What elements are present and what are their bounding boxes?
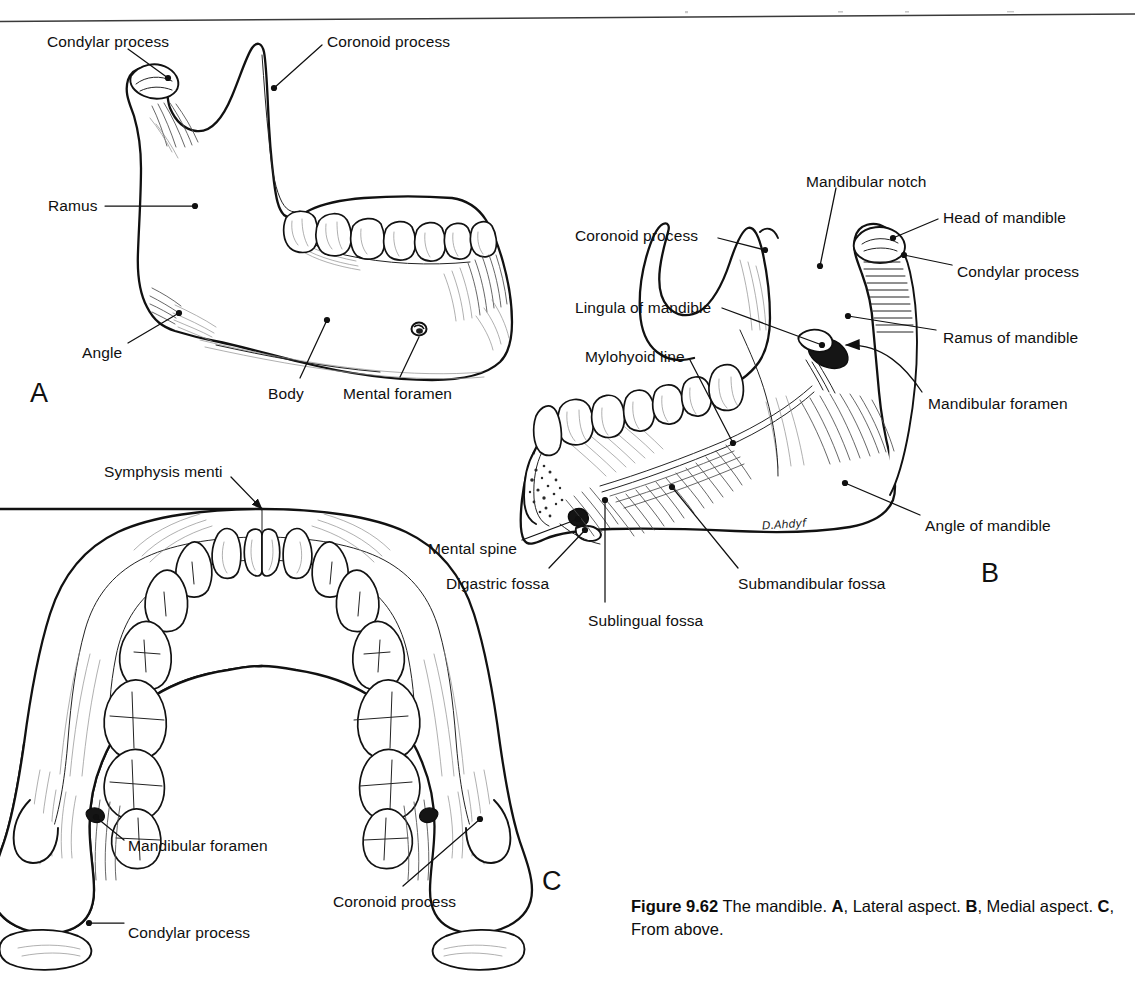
label-a-angle: Angle [82, 345, 122, 361]
label-b-mental-spine: Mental spine [428, 541, 517, 557]
label-c-symphysis-menti: Symphysis menti [104, 464, 223, 480]
c-mandibular-foramen-mark-right [420, 808, 438, 823]
label-a-condylar-process: Condylar process [47, 34, 169, 50]
label-a-body: Body [268, 386, 304, 402]
mental-foramen-hole [412, 323, 427, 336]
label-c-coronoid-process: Coronoid process [333, 894, 456, 910]
label-b-lingula-of-mandible: Lingula of mandible [575, 300, 711, 316]
label-b-digastric-fossa: Digastric fossa [446, 576, 549, 592]
figure-caption: Figure 9.62 The mandible. A, Lateral asp… [631, 895, 1123, 941]
panel-letter-c: C [542, 866, 562, 897]
label-b-ramus-of-mandible: Ramus of mandible [943, 330, 1078, 346]
label-a-coronoid-process: Coronoid process [327, 34, 450, 50]
label-a-mental-foramen: Mental foramen [343, 386, 452, 402]
label-b-condylar-process: Condylar process [957, 264, 1079, 280]
label-b-angle-of-mandible: Angle of mandible [925, 518, 1051, 534]
panel-letter-b: B [981, 558, 999, 589]
leader-c-condylar-process [86, 920, 124, 926]
leader-a-coronoid-process [271, 45, 322, 91]
label-b-sublingual-fossa: Sublingual fossa [588, 613, 703, 629]
label-b-mylohyoid-line: Mylohyoid line [585, 349, 685, 365]
label-c-mandibular-foramen: Mandibular foramen [128, 838, 268, 854]
figure-page: .bone { fill:#ffffff; stroke:#111111; st… [0, 0, 1135, 992]
label-a-ramus: Ramus [48, 198, 98, 214]
leader-b-mandibular-notch [817, 188, 836, 269]
label-b-mandibular-foramen: Mandibular foramen [928, 396, 1068, 412]
panel-a-drawing [127, 44, 512, 380]
panel-letter-a: A [30, 378, 48, 409]
label-c-condylar-process: Condylar process [128, 925, 250, 941]
leader-c-symphysis-menti [231, 477, 262, 509]
label-b-head-of-mandible: Head of mandible [943, 210, 1066, 226]
panel-b-drawing [521, 223, 917, 544]
label-b-coronoid-process: Coronoid process [575, 228, 698, 244]
label-b-mandibular-notch: Mandibular notch [806, 174, 927, 190]
label-b-submandibular-fossa: Submandibular fossa [738, 576, 886, 592]
